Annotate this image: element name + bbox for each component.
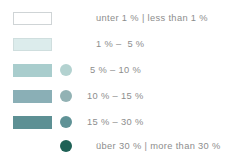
legend-label-3: 5 % – 10 % xyxy=(90,63,141,77)
legend-row: unter 1 % | less than 1 % xyxy=(0,6,237,32)
legend-label-4: 10 % – 15 % xyxy=(87,89,144,103)
legend-row: 1 % – 5 % xyxy=(0,32,237,58)
legend-swatch-circle-3 xyxy=(60,64,72,76)
legend-swatch-rect-3 xyxy=(13,64,52,77)
legend-swatch-circle-6 xyxy=(60,140,72,152)
legend-swatch-rect-4 xyxy=(13,90,52,103)
legend-swatch-rect-5 xyxy=(13,116,52,129)
legend-row: 15 % – 30 % xyxy=(0,110,237,136)
legend-label-1: unter 1 % | less than 1 % xyxy=(96,11,208,25)
legend-label-2: 1 % – 5 % xyxy=(96,37,144,51)
legend-swatch-rect-2 xyxy=(13,38,52,51)
legend-label-6: über 30 % | more than 30 % xyxy=(96,139,221,153)
legend-label-5: 15 % – 30 % xyxy=(87,115,144,129)
legend-swatch-rect-1 xyxy=(13,12,52,25)
legend-row: 5 % – 10 % xyxy=(0,58,237,84)
map-legend: unter 1 % | less than 1 % 1 % – 5 % 5 % … xyxy=(0,0,237,158)
legend-swatch-circle-5 xyxy=(60,116,72,128)
legend-row: 10 % – 15 % xyxy=(0,84,237,110)
legend-swatch-circle-4 xyxy=(60,90,72,102)
legend-row: über 30 % | more than 30 % xyxy=(0,134,237,158)
